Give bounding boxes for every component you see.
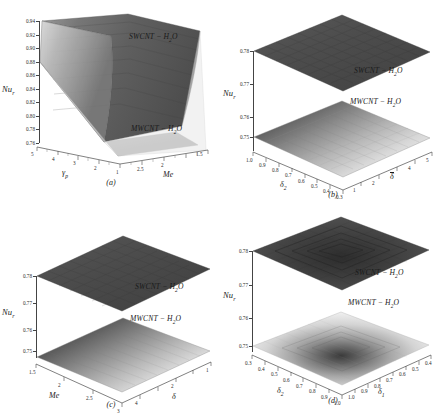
panel-a-ytick2-label: 2 (161, 162, 164, 168)
panel-b-xaxis-title: δ2 (280, 180, 287, 191)
panel-d-xtick-label: 0.6 (283, 377, 289, 383)
panel-b-yaxis-title: δ (390, 172, 394, 181)
panel-d-ytick2-label: 0.7 (386, 377, 392, 383)
panel-c-xaxis-title: Me (49, 391, 59, 400)
panel-d-xtick-label: 0.5 (271, 371, 277, 377)
panel-d-swcnt-label: SWCNT − H2O (355, 268, 404, 279)
panel-a-ytick2-label: 2.5 (137, 166, 143, 172)
panel-d-plot: 0.78 0.77 0.76 0.75 Nur (222, 206, 444, 411)
panel-c-xtick-label: 2 (58, 382, 61, 388)
panel-b-ytick2-label: 5 (426, 157, 429, 163)
panel-a-caption: (a) (0, 178, 222, 187)
panel-b-xtick-label: 0.9 (259, 162, 265, 168)
panel-d-xtick-label: 0.3 (245, 360, 251, 366)
panel-b-xtick-label: 0.8 (272, 167, 278, 173)
panel-c-ytick2-label: 2 (171, 383, 174, 389)
panel-b-ytick2-label: 4 (408, 165, 411, 171)
panel-b-caption: (b) (222, 190, 444, 199)
panel-a-floor (0, 0, 222, 205)
panel-c: 0.78 0.77 0.76 0.75 Nur 1.5 2 2.5 (0, 206, 222, 411)
panel-d-xtick-label: 0.7 (296, 383, 302, 389)
panel-c-xtick-label: 1.5 (29, 369, 35, 375)
panel-c-plot: 0.78 0.77 0.76 0.75 Nur 1.5 2 2.5 (0, 206, 222, 411)
panel-d-xtick-label: 0.8 (309, 388, 315, 394)
panel-c-mwcnt-label: MWCNT − H2O (130, 314, 181, 325)
panel-c-floor (0, 206, 222, 411)
panel-b-swcnt-label: SWCNT − H2O (354, 66, 403, 77)
panel-d-ytick2-label: 0.4 (425, 360, 431, 366)
panel-a-xaxis-title: γp (62, 168, 68, 179)
panel-a: 0.76 0.78 0.80 0.82 0.84 0.86 0.88 0.90 … (0, 0, 222, 205)
panel-a-xtick-label: 1 (116, 169, 119, 175)
panel-a-plot: 0.76 0.78 0.80 0.82 0.84 0.86 0.88 0.90 … (0, 0, 222, 205)
panel-b: 0.78 0.77 0.76 0.75 Nur (222, 0, 444, 205)
panel-b-floor (222, 0, 444, 205)
panel-a-swcnt-label: SWCNT − H2O (129, 32, 178, 43)
panel-d: 0.78 0.77 0.76 0.75 Nur (222, 206, 444, 411)
panel-a-xtick-label: 5 (31, 151, 34, 157)
panel-d-xaxis-title: δ2 (277, 386, 284, 397)
panel-b-xtick-label: 0.6 (298, 178, 304, 184)
panel-d-mwcnt-label: MWCNT − H2O (348, 298, 399, 309)
panel-b-mwcnt-label: MWCNT − H2O (350, 97, 401, 108)
panel-a-ytick2-label: 1.5 (196, 151, 202, 157)
panel-b-xtick-label: 0.5 (311, 183, 317, 189)
panel-d-xtick-label: 0.4 (258, 366, 264, 372)
panel-a-xtick-label: 4 (52, 156, 55, 162)
panel-a-mwcnt-label: MWCNT − H2O (131, 124, 182, 135)
panel-d-ytick2-label: 0.9 (361, 388, 367, 394)
panel-b-plot: 0.78 0.77 0.76 0.75 Nur (222, 0, 444, 205)
panel-b-ytick2-label: 2 (372, 180, 375, 186)
panel-b-xtick-label: 1.0 (246, 157, 252, 163)
panel-d-ytick2-label: 0.6 (399, 371, 405, 377)
panel-a-xtick-label: 2 (94, 165, 97, 171)
panel-d-floor (222, 206, 444, 411)
panel-b-xtick-label: 0.7 (285, 172, 291, 178)
panel-a-xtick-label: 3 (73, 160, 76, 166)
panel-d-ytick2-label: 0.5 (412, 366, 418, 372)
panel-c-swcnt-label: SWCNT − H2O (135, 282, 184, 293)
panel-d-caption: (d) (222, 396, 444, 405)
panel-c-caption: (c) (0, 400, 222, 409)
panel-c-ytick2-label: 1 (206, 367, 209, 373)
